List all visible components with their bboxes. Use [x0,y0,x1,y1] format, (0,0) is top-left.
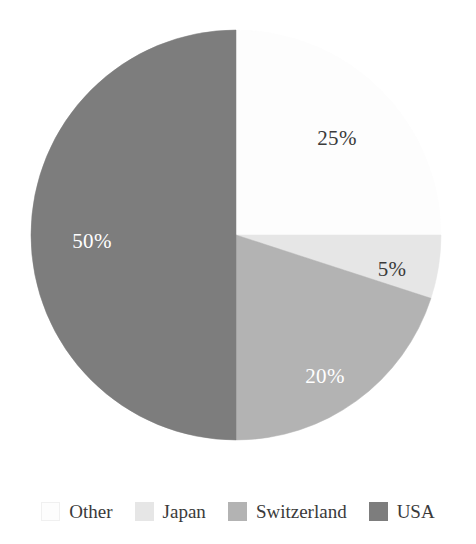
legend-swatch-other-icon [41,502,60,521]
legend-item-usa[interactable]: USA [369,502,435,521]
pie-slice-value-other: 25% [317,126,356,150]
legend-item-other[interactable]: Other [41,502,112,521]
pie-slice-value-usa: 50% [72,229,111,253]
legend-label-other: Other [69,502,112,521]
pie-slice-usa[interactable] [31,30,236,440]
pie-chart-plot-area: 25%5%20%50% [0,0,476,470]
legend-label-japan: Japan [163,502,206,521]
legend-label-switzerland: Switzerland [256,502,347,521]
pie-slice-value-japan: 5% [378,257,407,281]
legend-item-japan[interactable]: Japan [135,502,206,521]
legend-item-switzerland[interactable]: Switzerland [228,502,347,521]
legend-swatch-switzerland-icon [228,502,247,521]
pie-chart-svg: 25%5%20%50% [0,0,476,470]
legend-swatch-japan-icon [135,502,154,521]
pie-chart-figure: 25%5%20%50% OtherJapanSwitzerlandUSA [0,0,476,544]
legend-label-usa: USA [397,502,435,521]
pie-slice-value-switzerland: 20% [305,364,344,388]
legend-swatch-usa-icon [369,502,388,521]
chart-legend: OtherJapanSwitzerlandUSA [0,478,476,544]
